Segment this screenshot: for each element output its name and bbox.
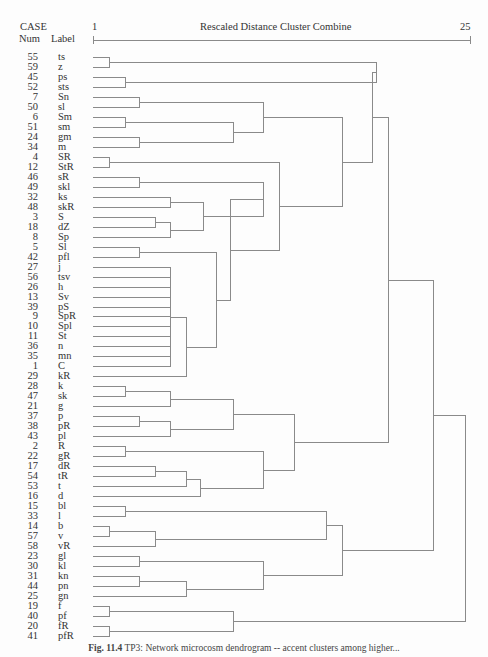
branch-h	[93, 386, 125, 387]
branch-h	[93, 127, 125, 128]
branch-h	[93, 636, 109, 637]
branch-h	[93, 287, 170, 288]
branch-h	[93, 596, 186, 597]
branch-h	[93, 207, 170, 208]
branch-v	[465, 415, 466, 622]
branch-h	[155, 471, 186, 472]
branch-h	[139, 142, 233, 143]
branch-v	[376, 62, 377, 83]
branch-h	[170, 230, 203, 231]
branch-h	[233, 414, 294, 415]
branch-h	[93, 586, 139, 587]
branch-h	[216, 300, 230, 301]
branch-h	[93, 496, 200, 497]
dendrogram-tree	[0, 0, 488, 657]
branch-h	[186, 589, 263, 590]
branch-h	[93, 436, 170, 437]
branch-h	[186, 479, 200, 480]
branch-h	[93, 486, 186, 487]
branch-h	[279, 206, 342, 207]
branch-h	[93, 326, 170, 327]
branch-h	[93, 446, 125, 447]
branch-h	[93, 177, 139, 178]
branch-h	[93, 416, 139, 417]
branch-h	[139, 421, 170, 422]
branch-h	[170, 317, 186, 318]
branch-h	[155, 222, 170, 223]
branch-h	[233, 621, 465, 622]
branch-h	[93, 566, 139, 567]
branch-h	[93, 456, 125, 457]
branch-h	[93, 626, 109, 627]
branch-h	[125, 391, 170, 392]
branch-h	[93, 137, 139, 138]
branch-h	[230, 250, 279, 251]
branch-v	[470, 36, 471, 44]
branch-h	[93, 247, 139, 248]
branch-h	[93, 197, 170, 198]
branch-h	[93, 67, 109, 68]
branch-h	[372, 117, 388, 118]
branch-h	[433, 415, 465, 416]
branch-h	[263, 470, 294, 471]
branch-h	[93, 187, 139, 188]
branch-h	[93, 217, 155, 218]
branch-h	[93, 157, 109, 158]
branch-h	[93, 77, 125, 78]
branch-h	[93, 237, 170, 238]
branch-h	[170, 429, 233, 430]
figure-caption: Fig. 11.4 TP3: Network microcosm dendrog…	[0, 643, 488, 653]
branch-h	[93, 167, 109, 168]
branch-h	[186, 347, 216, 348]
branch-h	[93, 87, 125, 88]
branch-h	[294, 442, 388, 443]
branch-v	[93, 36, 94, 44]
branch-h	[93, 257, 139, 258]
branch-h	[93, 576, 139, 577]
branch-h	[109, 531, 155, 532]
branch-h	[93, 227, 155, 228]
branch-h	[125, 82, 376, 83]
caption-fig-number: Fig. 11.4	[88, 643, 122, 653]
branch-h	[93, 506, 125, 507]
branch-h	[93, 307, 170, 308]
branch-h	[109, 631, 233, 632]
branch-h	[139, 102, 263, 103]
branch-h	[93, 336, 170, 337]
branch-h	[326, 525, 342, 526]
branch-h	[93, 97, 139, 98]
branch-h	[203, 216, 263, 217]
branch-h	[109, 62, 376, 63]
branch-h	[93, 297, 170, 298]
branch-h	[93, 107, 139, 108]
branch-h	[263, 575, 342, 576]
branch-h	[125, 511, 326, 512]
branch-h	[93, 616, 109, 617]
branch-h	[93, 346, 170, 347]
branch-h	[170, 399, 233, 400]
branch-h	[93, 426, 139, 427]
branch-h	[93, 466, 155, 467]
branch-h	[93, 147, 139, 148]
branch-h	[139, 561, 263, 562]
branch-h	[93, 546, 155, 547]
branch-h	[139, 581, 186, 582]
branch-h	[93, 476, 155, 477]
branch-h	[93, 40, 470, 41]
branch-h	[93, 606, 109, 607]
branch-h	[93, 526, 109, 527]
branch-h	[233, 132, 263, 133]
branch-h	[93, 516, 125, 517]
branch-h	[263, 117, 342, 118]
branch-h	[139, 182, 263, 183]
branch-h	[93, 406, 170, 407]
branch-h	[125, 122, 233, 123]
branch-h	[155, 539, 326, 540]
branch-h	[93, 356, 170, 357]
branch-h	[93, 396, 125, 397]
branch-h	[93, 366, 170, 367]
branch-h	[109, 162, 279, 163]
branch-h	[342, 162, 372, 163]
branch-h	[200, 488, 263, 489]
branch-h	[342, 550, 433, 551]
